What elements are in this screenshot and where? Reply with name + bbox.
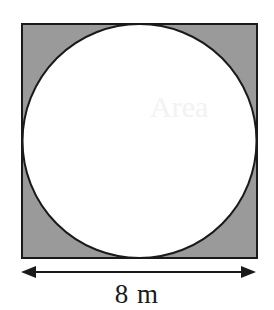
figure-canvas [0,0,274,310]
geometry-figure: Area 8 m [0,0,274,310]
arrow-left-icon [21,266,36,278]
width-dimension-arrow [21,266,256,278]
dimension-label: 8 m [0,279,274,309]
inscribed-circle [23,24,257,258]
arrow-right-icon [241,266,256,278]
